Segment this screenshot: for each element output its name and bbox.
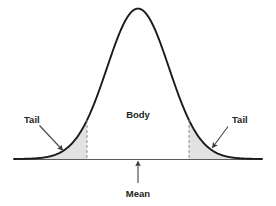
tail-left-label: Tail — [24, 114, 40, 125]
body-label: Body — [126, 109, 150, 120]
normal-distribution-diagram: Tail Body Tail Mean — [0, 0, 276, 206]
bell-curve-figure: Tail Body Tail Mean — [0, 0, 276, 206]
mean-label: Mean — [126, 188, 150, 199]
tail-right-label: Tail — [232, 114, 248, 125]
